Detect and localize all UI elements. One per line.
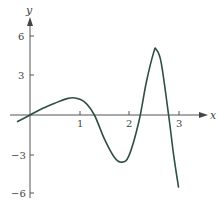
function-curve <box>18 48 179 187</box>
x-axis-arrow-icon <box>199 112 208 118</box>
y-tick-label: −6 <box>11 188 26 199</box>
x-tick-label: 1 <box>77 118 83 129</box>
x-tick-label: 2 <box>126 118 132 129</box>
y-tick-label: 3 <box>18 70 24 81</box>
x-axis-label: x <box>210 109 217 122</box>
y-axis-label: y <box>25 4 33 17</box>
y-axis-arrow-icon <box>27 17 33 26</box>
y-tick-label: 6 <box>18 31 24 42</box>
chart: 1 2 3 6 3 −3 −6 y x <box>0 0 219 214</box>
x-tick-label: 3 <box>176 118 182 129</box>
y-tick-label: −3 <box>11 150 26 161</box>
